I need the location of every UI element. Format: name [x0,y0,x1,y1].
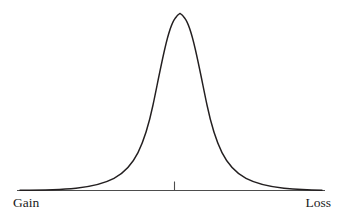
gain-loss-distribution-figure: Gain Loss [0,0,343,217]
distribution-plot [0,0,343,217]
axis-label-loss: Loss [305,196,331,210]
bell-curve-path [20,13,322,190]
axis-label-gain: Gain [13,196,39,210]
